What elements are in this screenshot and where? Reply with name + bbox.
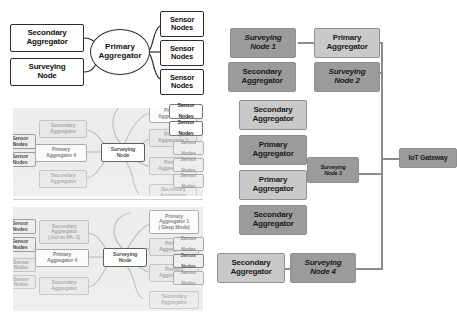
label-line-2: Aggregator [98,51,141,60]
label-line-2: Nodes [178,131,195,137]
panel-d-primary-aggregator-2: Primary Aggregator [239,170,307,200]
panel-c-right-primary-aggregator-1-sleep-mode: Primary Aggregator 1 ( Sleep Mode) [149,210,199,234]
panel-c-left-sensor-4: Sensor Nodes [13,275,36,289]
panel-c-right-secondary-aggregator: Secondary Aggregator [149,291,199,309]
panel-c-right-sensor-3: Sensor Nodes [173,271,204,285]
panel-d-surveying-node-1: Surveying Node 1 [230,28,296,58]
label-line-2: Aggregator [51,285,77,291]
label-line-3: ( Sleep Mode) [158,224,189,230]
label-line-2: Aggregator 4 [47,257,77,263]
panel-d-iot-gateway: Surveying Node 1 Secondary Aggregator Se… [215,0,423,325]
label-line-2: Nodes [181,281,197,287]
panel-c-left-secondary-aggregator-act-as-pa1: Secondary Aggregator ( Act as PA- 1) [39,220,89,244]
label-line-2: Aggregator [26,38,67,47]
label-line-2: Nodes [14,264,28,270]
panel-c-right-sensor-2: Sensor Nodes [173,254,204,268]
label-line-2: Node 3 [324,170,341,176]
label-line-1: Sensor [181,270,197,276]
label-line-1: Sensor [181,140,197,146]
panel-c-surveying-node: Surveying Node [103,248,147,267]
label-line-2: Aggregator [326,43,367,52]
panel-b-left-sensor-2: Sensor Nodes [13,152,36,167]
label-line-1: Primary [105,42,135,51]
panel-c-left-sensor-2: Sensor Nodes [13,237,36,252]
panel-b-right-sensor-5: Sensor Nodes [173,174,204,188]
label-line-2: Nodes [170,82,194,90]
panel-b-right-sensor-4: Sensor Nodes [173,158,204,172]
label-line-2: Nodes [170,24,194,32]
panel-c-left-sensor-3: Sensor Nodes [13,258,36,272]
panel-d-surveying-node-2: Surveying Node 2 [314,62,380,92]
label-line-1: Sensor [181,157,197,163]
panel-a-sensor-nodes-1: Sensor Nodes [160,11,204,37]
label-line-2: Aggregator [50,178,76,184]
label-line-1: Sensor [181,236,197,242]
panel-d-secondary-aggregator-1: Secondary Aggregator [228,62,296,92]
label-line-2: Node [117,152,130,158]
label-line-2: Node 1 [250,43,275,52]
label-line-2: Aggregator [230,268,271,277]
panel-a-sensor-nodes-2: Sensor Nodes [160,40,204,66]
panel-b-left-primary-aggregator-4: Primary Aggregator 4 [35,144,87,162]
label-line-2: Nodes [14,281,28,287]
panel-d-primary-aggregator-top: Primary Aggregator [314,28,380,58]
label-line-2: Aggregator [160,192,186,196]
panel-a-primary-aggregator: Primary Aggregator [90,29,150,75]
label-line-2: Nodes [13,226,27,232]
panel-b-surveying-node: Surveying Node [101,143,145,162]
label-line-2: Aggregator [252,185,293,194]
label-line-2: Node [29,72,66,81]
panel-d-iot-gateway-box: IoT Gateway [399,148,457,168]
panel-c-right-sensor-1: Sensor Nodes [173,237,204,251]
label-line-2: Aggregator [161,299,187,305]
label-line-2: Aggregator [50,128,76,134]
panel-b-left-secondary-aggregator-2: Secondary Aggregator [39,170,87,188]
panel-divider [13,199,203,200]
panel-d-primary-aggregator-1: Primary Aggregator [239,135,307,165]
panel-c-left-primary-aggregator-4: Primary Aggregator 4 [35,249,89,267]
panel-a-surveying-node: Surveying Node [10,58,84,86]
panel-b-right-sensor-1: Sensor Nodes [169,104,203,119]
panel-d-secondary-aggregator-2: Secondary Aggregator [239,100,307,130]
panel-d-secondary-aggregator-3: Secondary Aggregator [239,205,307,235]
label-line-2: Node 4 [310,268,335,277]
label-line-3: ( Act as PA- 1) [48,234,80,240]
label-line-2: Node [119,257,132,263]
panel-b-left-secondary-aggregator-1: Secondary Aggregator [39,120,87,138]
label-line-2: Nodes [181,184,197,190]
label-line-2: Nodes [13,159,27,165]
label-line-2: Nodes [170,53,194,61]
label-line-1: Sensor [178,120,195,126]
panel-a-sensor-nodes-3: Sensor Nodes [160,69,204,95]
label-line-2: Aggregator 4 [46,152,76,158]
connector-gateway [381,158,399,160]
label-line-1: Sensor [181,253,197,259]
gateway-label: IoT Gateway [408,154,447,162]
label-line-2: Nodes [13,244,27,250]
label-line-2: Aggregator [252,220,293,229]
connector-surveying-node-3 [358,173,382,175]
label-line-2: Nodes [13,141,27,147]
gateway-bus-line [381,42,383,270]
panel-b-right-sensor-2: Sensor Nodes [169,121,203,136]
label-line-1: Sensor [181,173,197,179]
panel-b-left-sensor-1: Sensor Nodes [13,134,36,149]
panel-d-surveying-node-4: Surveying Node 4 [290,253,356,283]
panel-a-single-aggregator: Secondary Aggregator Surveying Node Prim… [0,0,215,100]
label-line-2: Aggregator [252,115,293,124]
panel-b-right-sensor-3: Sensor Nodes [173,141,204,155]
label-line-1: Sensor [178,103,195,109]
panel-d-secondary-aggregator-4: Secondary Aggregator [217,253,285,283]
label-line-2: Aggregator [241,77,282,86]
label-line-2: Node 2 [334,77,359,86]
panel-a-secondary-aggregator: Secondary Aggregator [10,24,84,52]
label-line-2: Aggregator [252,150,293,159]
panel-d-surveying-node-3: Surveying Node 3 [307,157,359,183]
panel-c-left-sensor-1: Sensor Nodes [13,219,36,234]
panel-c-left-secondary-aggregator-2: Secondary Aggregator [39,277,89,295]
